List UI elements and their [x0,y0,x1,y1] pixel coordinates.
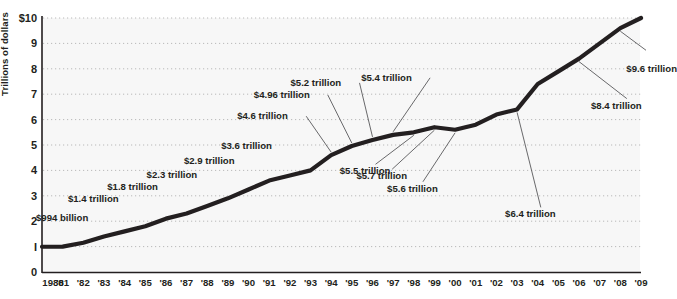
data-point-annotation: $4.6 trillion [237,111,288,121]
x-axis-tick-label: '06 [568,278,590,288]
x-axis-tick-label: '92 [279,278,301,288]
x-axis-tick-label: '02 [485,278,507,288]
x-axis-tick-label: '84 [114,278,136,288]
data-point-annotation: $1.4 trillion [68,194,119,204]
y-axis-tick-label: 4 [7,165,37,175]
y-axis-tick-label: 5 [7,140,37,150]
x-axis-tick-label: '01 [465,278,487,288]
x-axis-tick-label: '85 [134,278,156,288]
x-axis-tick-label: '09 [630,278,652,288]
x-axis-tick-label: '99 [423,278,445,288]
x-axis-tick-label: '04 [527,278,549,288]
data-point-annotation: $1.8 trillion [107,182,158,192]
data-point-annotation: $5.2 trillion [290,78,341,88]
data-point-annotation: $4.96 trillion [254,90,310,100]
y-axis-tick-label: 6 [7,115,37,125]
x-axis-tick-label: '96 [361,278,383,288]
x-axis-tick-label: '87 [176,278,198,288]
x-axis-tick-label: '00 [444,278,466,288]
x-axis-tick-label: '93 [300,278,322,288]
y-axis-tick-label: 0 [7,267,37,277]
x-axis-tick-label: '86 [155,278,177,288]
y-axis-tick-label: 9 [7,38,37,48]
y-axis-tick-label: 3 [7,191,37,201]
x-axis-tick-label: '95 [341,278,363,288]
x-axis-tick-label: '81 [52,278,74,288]
x-axis-tick-label: '94 [320,278,342,288]
data-point-annotation: $5.4 trillion [361,73,412,83]
x-axis-tick-label: '03 [506,278,528,288]
data-point-annotation: $3.6 trillion [221,141,272,151]
x-axis-tick-label: '08 [609,278,631,288]
x-axis-tick-label: '91 [258,278,280,288]
x-axis-tick-label: '88 [196,278,218,288]
x-axis-tick-label: '89 [217,278,239,288]
y-axis-tick-label: I [7,242,37,252]
y-axis-tick-label: 7 [7,89,37,99]
x-axis-tick-label: '05 [547,278,569,288]
data-point-annotation: $5.6 trillion [387,184,438,194]
data-point-annotation: $6.4 trillion [505,209,556,219]
data-point-annotation: $2.9 trillion [184,156,235,166]
x-axis-tick-label: '90 [238,278,260,288]
y-axis-tick-label: $10 [7,13,37,23]
data-point-annotation: $5.7 trillion [356,171,407,181]
x-axis-tick-label: '07 [589,278,611,288]
x-axis-tick-label: '83 [93,278,115,288]
data-point-annotation: $994 billion [36,213,88,223]
x-axis-tick-label: '97 [382,278,404,288]
x-axis-tick-label: '82 [72,278,94,288]
y-axis-tick-label: 2 [7,216,37,226]
y-axis-tick-label: 8 [7,64,37,74]
x-axis-tick-label: '98 [403,278,425,288]
data-point-annotation: $8.4 trillion [591,101,642,111]
data-point-annotation: $2.3 trillion [147,170,198,180]
data-point-annotation: $9.6 trillion [626,64,677,74]
